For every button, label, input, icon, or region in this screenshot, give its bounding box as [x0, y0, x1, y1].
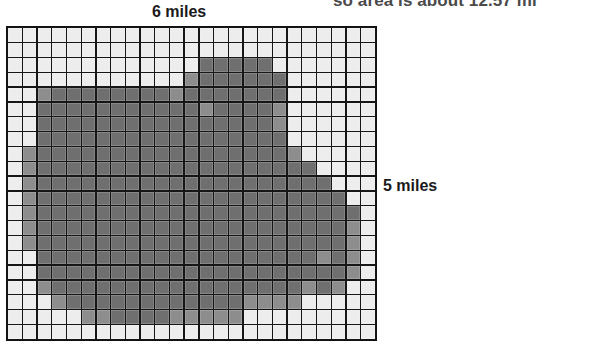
grid-cell: [229, 147, 242, 161]
grid-cell: [258, 310, 271, 324]
grid-cell: [155, 206, 168, 220]
grid-cell: [332, 281, 345, 295]
grid-cell: [317, 310, 330, 324]
grid-cell: [302, 73, 315, 87]
grid-cell: [111, 28, 124, 42]
grid-cell: [126, 251, 139, 265]
grid-cell: [302, 103, 315, 117]
grid-cell: [38, 295, 51, 309]
grid-cell: [97, 192, 110, 206]
grid-cell: [229, 58, 242, 72]
grid-cell: [97, 251, 110, 265]
grid-cell: [185, 58, 198, 72]
grid-cell: [52, 251, 65, 265]
grid-cell: [258, 221, 271, 235]
grid-cell: [185, 177, 198, 191]
grid-cell: [185, 281, 198, 295]
grid-cell: [302, 43, 315, 57]
grid-cell: [332, 162, 345, 176]
grid-cell: [170, 221, 183, 235]
grid-cell: [52, 221, 65, 235]
grid-cell: [67, 103, 80, 117]
grid-cell: [347, 58, 360, 72]
grid-cell: [214, 147, 227, 161]
grid-cell: [111, 221, 124, 235]
grid-cell: [347, 206, 360, 220]
grid-cell: [317, 177, 330, 191]
grid-cell: [155, 295, 168, 309]
grid-cell: [347, 310, 360, 324]
grid-cell: [302, 221, 315, 235]
grid-cell: [23, 236, 36, 250]
grid-cell: [332, 206, 345, 220]
grid-cell: [317, 251, 330, 265]
grid-cell: [273, 221, 286, 235]
grid-cell: [111, 310, 124, 324]
grid-cell: [229, 103, 242, 117]
grid-cell: [273, 177, 286, 191]
grid-cell: [244, 177, 257, 191]
grid-cell: [332, 88, 345, 102]
grid-cell: [200, 88, 213, 102]
grid-cell: [170, 206, 183, 220]
grid-cell: [200, 73, 213, 87]
grid-cell: [347, 73, 360, 87]
grid-cell: [214, 117, 227, 131]
grid-cell: [126, 103, 139, 117]
grid-cell: [23, 192, 36, 206]
grid-cell: [52, 73, 65, 87]
grid-cell: [347, 28, 360, 42]
grid-cell: [141, 28, 154, 42]
grid-cell: [111, 251, 124, 265]
grid-cell: [170, 117, 183, 131]
grid-cell: [288, 281, 301, 295]
grid-cell: [214, 177, 227, 191]
grid-cell: [258, 43, 271, 57]
grid-cell: [258, 162, 271, 176]
grid-cell: [361, 43, 374, 57]
grid-cell: [185, 73, 198, 87]
area-estimation-figure: so area is about 12.57 mi 6 miles 5 mile…: [0, 0, 598, 355]
grid-cell: [67, 43, 80, 57]
grid-cell: [82, 162, 95, 176]
grid-cell: [302, 266, 315, 280]
grid-cell: [214, 236, 227, 250]
grid-cell: [82, 221, 95, 235]
grid-cell: [244, 162, 257, 176]
grid-cell: [8, 132, 21, 146]
grid-cell: [258, 132, 271, 146]
grid-cell: [332, 177, 345, 191]
grid-cell: [258, 206, 271, 220]
grid-cell: [229, 28, 242, 42]
grid-cell: [52, 162, 65, 176]
grid-cell: [361, 192, 374, 206]
grid-cell: [23, 43, 36, 57]
grid-cell: [214, 162, 227, 176]
grid-cell: [111, 58, 124, 72]
grid-cell: [82, 43, 95, 57]
grid-cell: [23, 295, 36, 309]
grid-cell: [200, 103, 213, 117]
grid-cell: [244, 73, 257, 87]
grid-cell: [111, 206, 124, 220]
grid-cell: [258, 117, 271, 131]
grid-cell: [111, 325, 124, 339]
grid-cell: [126, 132, 139, 146]
grid-cell: [288, 88, 301, 102]
grid-cell: [288, 221, 301, 235]
grid-cell: [229, 132, 242, 146]
grid-cell: [347, 281, 360, 295]
grid-cell: [126, 28, 139, 42]
grid-cell: [214, 28, 227, 42]
grid-cell: [317, 221, 330, 235]
grid-cell: [82, 310, 95, 324]
grid-cell: [361, 251, 374, 265]
grid-cell: [82, 177, 95, 191]
grid-cell: [288, 206, 301, 220]
grid-cell: [273, 251, 286, 265]
grid-cell: [244, 192, 257, 206]
grid-cell: [67, 251, 80, 265]
grid-cell: [214, 310, 227, 324]
grid-cell: [38, 43, 51, 57]
grid-cell: [141, 295, 154, 309]
